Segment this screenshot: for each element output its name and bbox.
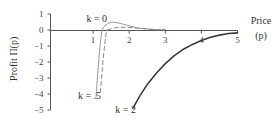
- x-axis-title-line1: Price: [251, 15, 272, 26]
- x-tick-label: 2: [127, 35, 132, 45]
- curve-label-k-5: k = .5: [78, 90, 101, 101]
- y-tick-label: 0: [39, 25, 44, 35]
- y-tick-label: 1: [39, 9, 44, 19]
- x-axis-title-line2: (p): [255, 30, 267, 42]
- y-tick-label: −4: [34, 89, 44, 99]
- y-tick-label: −3: [34, 73, 44, 83]
- x-tick-label: 5: [235, 35, 240, 45]
- profit-price-chart: 10−1−2−3−4−5 12345 k = 0k = .5k = 2 Prof…: [0, 0, 280, 128]
- annotation-group: k = 0k = .5k = 2: [78, 13, 136, 115]
- y-tick-label: −2: [34, 57, 44, 67]
- series-line-k-2: [133, 33, 238, 109]
- y-axis: 10−1−2−3−4−5: [34, 9, 51, 115]
- curve-label-k-0: k = 0: [86, 13, 107, 24]
- y-tick-label: −1: [34, 41, 44, 51]
- y-axis-title: Profit Π(p): [8, 37, 20, 81]
- curve-label-k-2: k = 2: [115, 104, 136, 115]
- x-tick-label: 3: [163, 35, 168, 45]
- x-tick-label: 1: [91, 35, 96, 45]
- series-line-k-5: [100, 27, 165, 92]
- y-tick-label: −5: [34, 105, 44, 115]
